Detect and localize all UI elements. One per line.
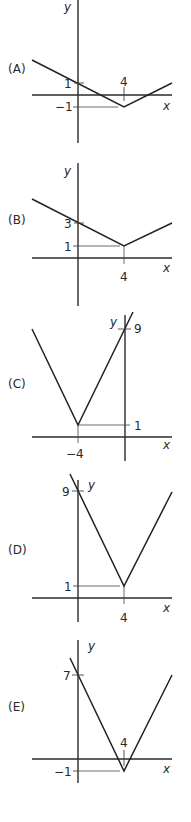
y-intercept-label: 3 bbox=[64, 217, 72, 231]
x-tick-label: 4 bbox=[120, 736, 128, 750]
graph-option-c: (C) y x −4 9 1 bbox=[0, 300, 191, 465]
graph-option-d: (D) y x 4 9 1 bbox=[0, 460, 191, 625]
graph-c-plot: y x −4 9 1 bbox=[0, 300, 191, 465]
graph-a-plot: y x 4 1 −1 bbox=[0, 0, 191, 150]
vertex-y-label: 1 bbox=[64, 580, 72, 594]
vertex-y-label: 1 bbox=[64, 240, 72, 254]
y-intercept-label: 7 bbox=[63, 669, 71, 683]
y-intercept-label: 9 bbox=[62, 485, 70, 499]
graph-b-plot: y x 4 3 1 bbox=[0, 150, 191, 310]
x-axis-label: x bbox=[162, 762, 171, 776]
x-axis-label: x bbox=[162, 261, 171, 275]
y-axis-label: y bbox=[63, 0, 72, 14]
y-intercept-label: 1 bbox=[64, 77, 72, 91]
graph-option-e: (E) y x 4 7 −1 bbox=[0, 620, 191, 822]
x-axis-label: x bbox=[162, 99, 171, 113]
vertex-y-label: −1 bbox=[55, 100, 73, 114]
abs-value-curve bbox=[32, 60, 172, 107]
x-tick-label: −4 bbox=[66, 447, 84, 461]
graph-option-b: (B) y x 4 3 1 bbox=[0, 150, 191, 310]
x-tick-label: 4 bbox=[120, 270, 128, 284]
vertex-y-label: 1 bbox=[134, 419, 142, 433]
x-axis-label: x bbox=[162, 601, 171, 615]
y-axis-label: y bbox=[63, 164, 72, 178]
vertex-y-label: −1 bbox=[54, 765, 72, 779]
graph-option-a: (A) y x 4 1 −1 bbox=[0, 0, 191, 150]
y-intercept-label: 9 bbox=[134, 322, 142, 336]
graph-d-plot: y x 4 9 1 bbox=[0, 460, 191, 625]
x-tick-label: 4 bbox=[120, 75, 128, 89]
abs-value-curve bbox=[32, 312, 133, 425]
x-axis-label: x bbox=[162, 438, 171, 452]
y-axis-label: y bbox=[109, 315, 118, 329]
graph-e-plot: y x 4 7 −1 bbox=[0, 620, 191, 822]
abs-value-curve bbox=[70, 658, 172, 771]
abs-value-curve bbox=[32, 199, 172, 246]
y-axis-label: y bbox=[87, 639, 96, 653]
y-axis-label: y bbox=[87, 478, 96, 492]
abs-value-curve bbox=[70, 474, 172, 586]
